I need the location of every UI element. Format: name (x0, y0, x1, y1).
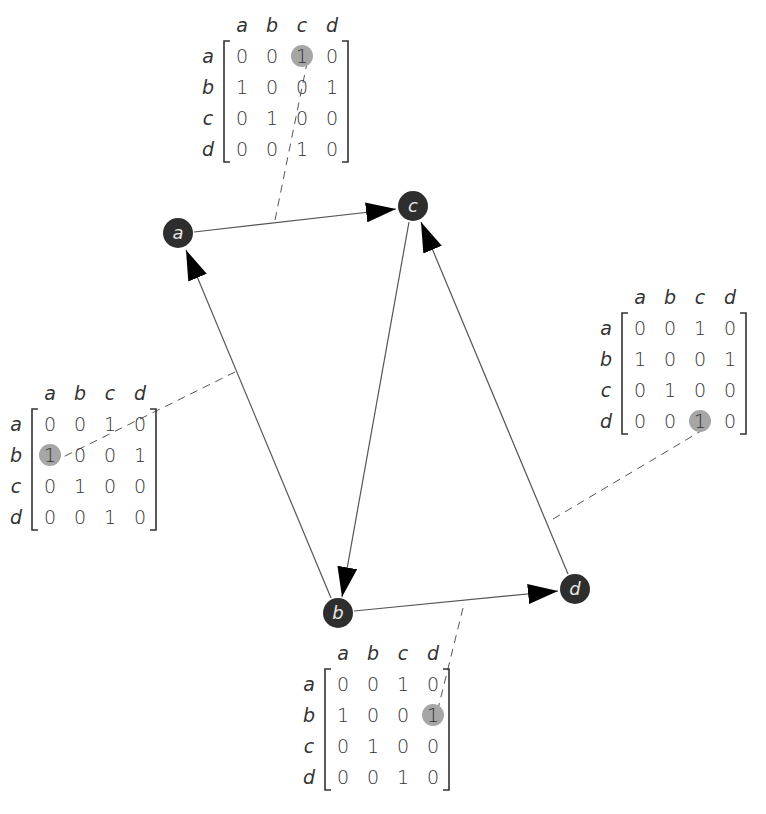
matrix-cell: 0 (664, 317, 676, 339)
matrix-row-header: d (202, 138, 215, 160)
matrix-row-header: c (203, 107, 214, 129)
node-b[interactable]: b (323, 598, 353, 628)
matrix-cell: 0 (694, 348, 706, 370)
edge-c-to-b (342, 222, 409, 597)
matrix-right: abcda0010b1001c0100d0010 (600, 286, 746, 434)
matrix-col-header: c (297, 14, 308, 36)
matrix-cell: 0 (427, 766, 439, 788)
matrix-col-header: a (337, 642, 349, 664)
matrix-row-header: a (202, 45, 214, 67)
matrix-cell: 1 (74, 475, 86, 497)
matrix-cell: 0 (44, 506, 56, 528)
matrix-col-header: c (398, 642, 409, 664)
matrix-cell: 0 (337, 735, 349, 757)
matrix-cell: 0 (724, 317, 736, 339)
matrix-cell: 0 (427, 735, 439, 757)
matrix-cell: 0 (134, 475, 146, 497)
matrix-col-header: d (724, 286, 737, 308)
matrix-col-header: b (266, 14, 278, 36)
matrix-cell: 0 (367, 673, 379, 695)
node-a[interactable]: a (163, 218, 193, 248)
matrix-cell: 0 (266, 76, 278, 98)
matrix-left: abcda0010b1001c0100d0010 (10, 382, 156, 530)
matrix-cell: 0 (337, 673, 349, 695)
node-d[interactable]: d (560, 574, 590, 604)
edge-b-to-d (354, 591, 558, 611)
matrix-cell: 0 (397, 735, 409, 757)
matrix-cell: 1 (664, 379, 676, 401)
matrix-cell: 1 (296, 45, 308, 67)
matrix-top: abcda0010b1001c0100d0010 (202, 14, 348, 162)
matrix-cell: 0 (74, 506, 86, 528)
node-b-label: b (332, 602, 343, 623)
matrix-cell: 0 (104, 444, 116, 466)
leader-right (553, 431, 701, 519)
matrix-cell: 1 (44, 444, 56, 466)
matrix-row-header: a (303, 673, 315, 695)
matrix-cell: 0 (104, 475, 116, 497)
matrix-cell: 1 (266, 107, 278, 129)
matrix-cell: 0 (337, 766, 349, 788)
matrix-col-header: c (105, 382, 116, 404)
matrix-cell: 0 (326, 138, 338, 160)
matrix-row-header: b (10, 444, 22, 466)
matrix-cell: 0 (367, 766, 379, 788)
nodes: a b c d (163, 191, 590, 628)
matrix-cell: 1 (367, 735, 379, 757)
matrix-cell: 0 (266, 45, 278, 67)
matrix-cell: 0 (724, 379, 736, 401)
matrix-cell: 0 (724, 410, 736, 432)
matrix-row-header: a (10, 413, 22, 435)
matrix-cell: 1 (134, 444, 146, 466)
matrix-cell: 0 (664, 348, 676, 370)
node-c[interactable]: c (398, 191, 428, 221)
matrix-row-header: b (202, 76, 214, 98)
node-a-label: a (172, 222, 183, 243)
left-bracket (325, 669, 331, 790)
right-bracket (150, 409, 156, 530)
matrix-row-header: c (601, 379, 612, 401)
edge-a-to-c (194, 209, 396, 232)
matrix-cell: 0 (74, 413, 86, 435)
matrix-row-header: a (600, 317, 612, 339)
matrix-col-header: b (664, 286, 676, 308)
matrix-col-header: b (74, 382, 86, 404)
matrix-cell: 0 (236, 45, 248, 67)
right-bracket (443, 669, 449, 790)
matrix-cell: 1 (694, 317, 706, 339)
matrix-col-header: b (367, 642, 379, 664)
matrix-cell: 0 (74, 444, 86, 466)
matrix-cell: 1 (397, 766, 409, 788)
right-bracket (740, 313, 746, 434)
matrix-cell: 1 (634, 348, 646, 370)
matrix-cell: 0 (44, 475, 56, 497)
matrix-cell: 0 (326, 107, 338, 129)
matrix-cell: 0 (236, 107, 248, 129)
matrix-cell: 0 (634, 317, 646, 339)
matrix-cell: 1 (236, 76, 248, 98)
edges (186, 209, 568, 611)
matrix-cell: 1 (326, 76, 338, 98)
matrix-cell: 1 (296, 138, 308, 160)
node-c-label: c (408, 195, 418, 216)
matrix-cell: 0 (236, 138, 248, 160)
matrix-col-header: a (236, 14, 248, 36)
matrix-cell: 1 (397, 673, 409, 695)
adjacency-matrices: abcda0010b1001c0100d0010abcda0010b1001c0… (10, 14, 746, 790)
matrix-cell: 1 (724, 348, 736, 370)
matrix-col-header: d (326, 14, 339, 36)
matrix-row-header: c (11, 475, 22, 497)
matrix-row-header: d (600, 410, 613, 432)
matrix-cell: 0 (634, 410, 646, 432)
matrix-col-header: a (634, 286, 646, 308)
left-bracket (622, 313, 628, 434)
node-d-label: d (569, 578, 581, 599)
matrix-cell: 1 (694, 410, 706, 432)
matrix-cell: 0 (326, 45, 338, 67)
matrix-cell: 0 (664, 410, 676, 432)
matrix-cell: 0 (397, 704, 409, 726)
matrix-row-header: c (304, 735, 315, 757)
matrix-cell: 1 (104, 413, 116, 435)
matrix-row-header: b (600, 348, 612, 370)
left-bracket (32, 409, 38, 530)
